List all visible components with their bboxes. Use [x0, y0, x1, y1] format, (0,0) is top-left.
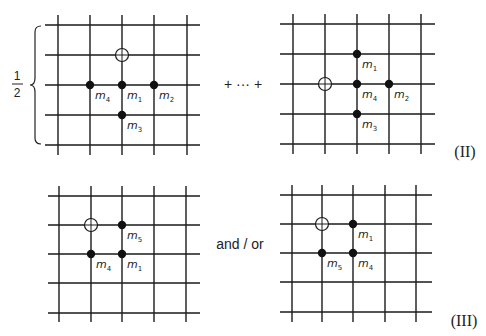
and-or-connector: and / or: [216, 236, 264, 252]
site-dot-icon: [118, 250, 126, 258]
site-dot-icon: [349, 249, 357, 257]
site-label-m4: m4: [358, 257, 374, 272]
left-brace-icon: [30, 26, 41, 144]
site-label-m2: m2: [159, 89, 174, 104]
site-label-m5: m5: [327, 257, 342, 272]
site-dot-icon: [353, 110, 361, 118]
site-dot-icon: [318, 249, 326, 257]
fraction-numerator: 1: [14, 69, 21, 83]
equation-label-III: (III): [451, 312, 478, 330]
site-label-m1: m1: [358, 228, 373, 243]
equation-label-II: (II): [454, 143, 475, 161]
site-dot-icon: [353, 50, 361, 58]
site-label-m3: m3: [127, 119, 142, 134]
circle-plus-icon: [116, 49, 129, 62]
lattice-panel-bottom-right: m1m5m4: [280, 185, 432, 322]
circle-plus-icon: [319, 78, 332, 91]
lattice-diagram: 1 2 m4m1m2m3m1m4m2m3m5m4m1m1m5m4 + ··· +…: [0, 0, 486, 336]
circle-plus-icon: [85, 219, 98, 232]
site-dot-icon: [150, 81, 158, 89]
site-label-m3: m3: [362, 118, 377, 133]
lattice-panel-bottom-left: m5m4m1: [48, 186, 200, 322]
sum-connector: + ··· +: [224, 76, 262, 92]
lattice-panel-top-right: m1m4m2m3: [280, 14, 435, 154]
site-label-m4: m4: [96, 258, 112, 273]
site-label-m1: m1: [127, 258, 142, 273]
site-label-m5: m5: [127, 229, 142, 244]
site-dot-icon: [349, 220, 357, 228]
site-label-m2: m2: [394, 88, 409, 103]
site-dot-icon: [118, 111, 126, 119]
site-dot-icon: [385, 80, 393, 88]
site-dot-icon: [118, 81, 126, 89]
lattice-panel-top-left: m4m1m2m3: [45, 15, 200, 155]
site-dot-icon: [87, 250, 95, 258]
prefactor-half: 1 2: [12, 26, 41, 144]
site-dot-icon: [86, 81, 94, 89]
circle-plus-icon: [316, 218, 329, 231]
fraction-denominator: 2: [14, 86, 21, 100]
site-dot-icon: [118, 221, 126, 229]
site-label-m1: m1: [362, 58, 377, 73]
site-label-m1: m1: [127, 89, 142, 104]
site-dot-icon: [353, 80, 361, 88]
site-label-m4: m4: [95, 89, 111, 104]
site-label-m4: m4: [362, 88, 378, 103]
